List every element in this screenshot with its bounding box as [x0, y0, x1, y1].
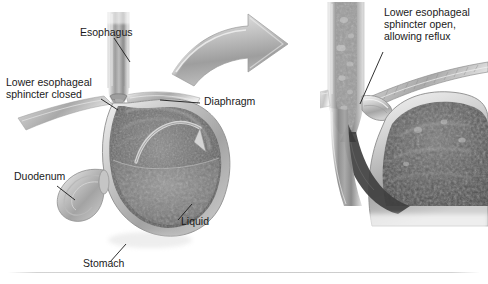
label-sphincter-open-line3: allowing reflux: [384, 31, 451, 43]
magnify-arrow-icon: [172, 14, 288, 86]
diaphragm-left-band: [18, 96, 112, 130]
label-duodenum: Duodenum: [14, 171, 65, 183]
label-liquid: Liquid: [181, 216, 209, 228]
label-sphincter-closed-line2: sphincter closed: [6, 89, 82, 101]
label-stomach: Stomach: [83, 258, 124, 270]
label-diaphragm: Diaphragm: [204, 96, 255, 108]
label-sphincter-open-line1: Lower esophageal: [384, 7, 470, 19]
label-sphincter-open-line2: sphincter open,: [384, 19, 456, 31]
label-esophagus: Esophagus: [80, 27, 133, 39]
anatomy-illustration: [0, 0, 488, 284]
gerd-anatomy-figure: Esophagus Lower esophageal sphincter clo…: [0, 0, 488, 284]
footer-divider: [8, 272, 480, 273]
esophagus: [106, 10, 131, 102]
label-sphincter-closed-line1: Lower esophageal: [6, 77, 92, 89]
